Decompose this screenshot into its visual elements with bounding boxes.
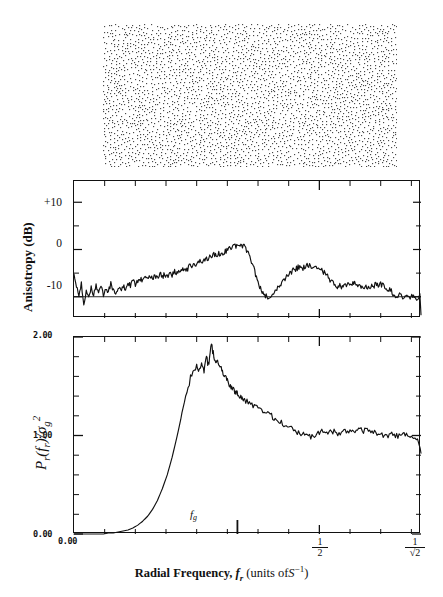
figure-root: Anisotropy (dB) +10 0 -10 Pr(fr)/σg2 2.0… <box>0 0 443 597</box>
power-spectrum-data-trace <box>74 344 421 534</box>
fg-sub: g <box>193 513 197 522</box>
power-spectrum-plot-panel <box>73 336 420 533</box>
anisotropy-plot-svg <box>74 181 421 318</box>
anisotropy-ytick-zero: 0 <box>28 237 62 249</box>
power-axis-paren-open: ( <box>33 452 49 457</box>
xaxis-caption-prefix: Radial Frequency, <box>135 566 233 580</box>
anisotropy-ytick-plus10: +10 <box>28 196 62 208</box>
power-axis-P: P <box>33 461 49 470</box>
xtick-invsqrt2-denominator: √2 <box>405 547 425 558</box>
power-ytick-0: 0.00 <box>33 529 52 539</box>
fg-annotation-label: fg <box>190 508 197 522</box>
anisotropy-axis-title: Anisotropy (dB) <box>20 222 36 312</box>
xtick-label-half: 1 2 <box>312 537 328 558</box>
dot-pattern-panel <box>103 24 397 167</box>
xtick-half-numerator: 1 <box>312 537 328 547</box>
anisotropy-data-trace <box>74 244 421 315</box>
xaxis-caption-units-exp: −1 <box>295 564 305 574</box>
power-axis-P-sub: r <box>40 457 52 461</box>
power-axis-f: f <box>33 447 49 451</box>
power-spectrum-plot-svg <box>74 337 421 534</box>
xtick-label-invsqrt2: 1 √2 <box>405 537 425 558</box>
dot-pattern-canvas <box>103 24 397 167</box>
xtick-invsqrt2-numerator: 1 <box>405 537 425 547</box>
power-spectrum-axis-title: Pr(fr)/σg2 <box>30 416 52 470</box>
xaxis-caption-var-sub: r <box>240 573 244 583</box>
power-axis-sigma-sub: g <box>40 421 52 426</box>
power-ytick-1: 1.00 <box>33 430 52 440</box>
anisotropy-ytick-minus10: -10 <box>24 279 62 291</box>
power-axis-f-sub: r <box>40 443 52 447</box>
xtick-label-zero: 0.00 <box>58 536 77 546</box>
xaxis-caption: Radial Frequency, fr (units ofS−1) <box>0 564 443 583</box>
anisotropy-plot-panel <box>73 180 420 317</box>
power-ytick-2: 2.00 <box>33 330 52 340</box>
power-axis-sigma-exp: 2 <box>30 416 42 421</box>
xaxis-caption-units-close: ) <box>304 566 308 580</box>
xaxis-caption-units-open: (units of <box>246 566 288 580</box>
xtick-half-denominator: 2 <box>312 547 328 558</box>
